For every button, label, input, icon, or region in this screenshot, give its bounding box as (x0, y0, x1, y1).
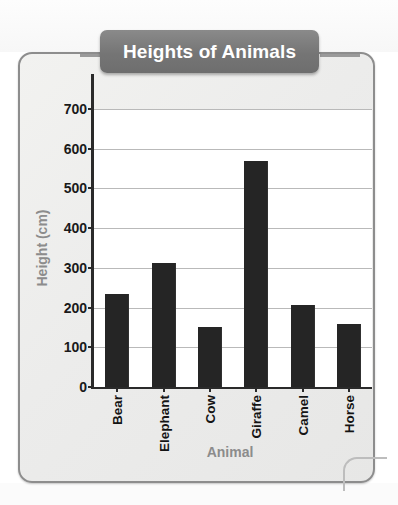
y-tick-label: 200 (64, 300, 87, 316)
chart-card: 0100200300400500600700BearElephantCowGir… (18, 52, 375, 483)
banner-rule-right (320, 54, 360, 57)
bar-cow (198, 327, 222, 387)
x-tick-mark (163, 387, 165, 392)
y-axis-upper-stub (91, 74, 94, 110)
gridline (94, 268, 372, 269)
chart-title-text: Heights of Animals (123, 41, 296, 63)
y-tick-label: 600 (64, 141, 87, 157)
y-tick-mark (88, 346, 94, 348)
y-axis-title: Height (cm) (28, 109, 54, 387)
page-background-bottom (0, 483, 398, 505)
x-tick-label: Camel (295, 395, 310, 436)
y-tick-label: 700 (64, 101, 87, 117)
bar-elephant (152, 263, 176, 387)
y-tick-label: 500 (64, 180, 87, 196)
y-tick-mark (88, 187, 94, 189)
bar-giraffe (244, 161, 268, 387)
x-tick-label: Cow (202, 395, 217, 424)
y-tick-mark (88, 108, 94, 110)
y-axis-title-text: Height (cm) (33, 210, 49, 287)
page-corner-arc (343, 457, 387, 491)
y-tick-mark (88, 307, 94, 309)
bar-camel (291, 305, 315, 387)
gridline (94, 188, 372, 189)
x-tick-label: Bear (110, 395, 125, 425)
y-tick-mark (88, 227, 94, 229)
bar-horse (337, 324, 361, 387)
gridline (94, 109, 372, 110)
gridline (94, 347, 372, 348)
y-tick-mark (88, 148, 94, 150)
y-tick-label: 300 (64, 260, 87, 276)
x-axis-title-text: Animal (91, 444, 369, 460)
bar-bear (105, 294, 129, 387)
gridline (94, 228, 372, 229)
chart-title-banner: Heights of Animals (100, 30, 319, 73)
x-tick-label: Giraffe (249, 395, 264, 439)
y-tick-label: 0 (79, 379, 87, 395)
y-tick-mark (88, 386, 94, 388)
gridline (94, 149, 372, 150)
x-tick-mark (255, 387, 257, 392)
plot-area: 0100200300400500600700BearElephantCowGir… (91, 109, 372, 389)
x-tick-label: Horse (341, 395, 356, 433)
x-tick-mark (302, 387, 304, 392)
x-tick-mark (348, 387, 350, 392)
y-tick-label: 400 (64, 220, 87, 236)
x-tick-mark (116, 387, 118, 392)
x-tick-mark (209, 387, 211, 392)
gridline (94, 308, 372, 309)
y-tick-label: 100 (64, 339, 87, 355)
y-tick-mark (88, 267, 94, 269)
